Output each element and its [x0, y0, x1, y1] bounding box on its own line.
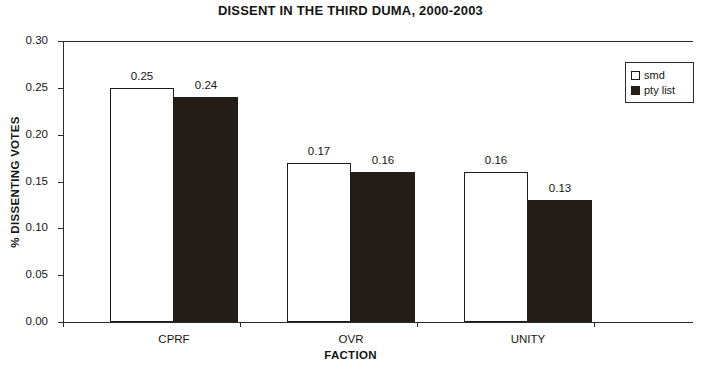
bar-unity-pty-list: [528, 200, 592, 322]
x-tick-mark: [240, 322, 241, 327]
x-category-label-cprf: CPRF: [158, 333, 189, 345]
x-tick-mark: [594, 322, 595, 327]
y-tick-mark: [58, 275, 63, 276]
bar-ovr-smd: [287, 163, 351, 322]
y-tick-mark: [58, 41, 63, 42]
x-axis-line: [63, 322, 693, 323]
y-tick-mark: [58, 135, 63, 136]
y-tick-label: 0.30: [8, 34, 48, 46]
bar-value-label: 0.13: [549, 182, 571, 194]
x-tick-mark: [417, 322, 418, 327]
bar-value-label: 0.24: [195, 79, 217, 91]
chart-figure: DISSENT IN THE THIRD DUMA, 2000-2003 0.3…: [0, 0, 701, 374]
y-tick-label: 0.00: [8, 315, 48, 327]
bar-value-label: 0.16: [485, 154, 507, 166]
bar-cprf-pty-list: [174, 97, 238, 322]
legend-swatch-icon: [631, 71, 640, 80]
x-tick-mark: [63, 322, 64, 327]
y-axis-title: % DISSENTING VOTES: [9, 116, 21, 247]
chart-title: DISSENT IN THE THIRD DUMA, 2000-2003: [0, 3, 701, 18]
y-tick-mark: [58, 88, 63, 89]
bar-value-label: 0.17: [308, 145, 330, 157]
x-category-label-ovr: OVR: [339, 333, 364, 345]
chart-legend: smdpty list: [625, 62, 694, 103]
legend-item-smd: smd: [631, 68, 689, 82]
y-tick-mark: [58, 182, 63, 183]
x-axis-title: FACTION: [0, 349, 701, 361]
bar-ovr-pty-list: [351, 172, 415, 322]
legend-label: smd: [644, 70, 665, 81]
bar-cprf-smd: [110, 88, 174, 322]
y-tick-label: 0.05: [8, 268, 48, 280]
bar-unity-smd: [464, 172, 528, 322]
plot-area: 0.300.250.200.150.100.050.00 % DISSENTIN…: [63, 41, 693, 322]
legend-swatch-icon: [631, 86, 640, 95]
y-tick-mark: [58, 228, 63, 229]
bar-value-label: 0.16: [372, 154, 394, 166]
legend-label: pty list: [644, 85, 675, 96]
x-category-label-unity: UNITY: [511, 333, 546, 345]
plot-top-border: [63, 41, 693, 42]
bar-value-label: 0.25: [131, 70, 153, 82]
legend-item-pty-list: pty list: [631, 83, 689, 97]
y-axis-line: [63, 41, 64, 323]
y-tick-label: 0.25: [8, 81, 48, 93]
